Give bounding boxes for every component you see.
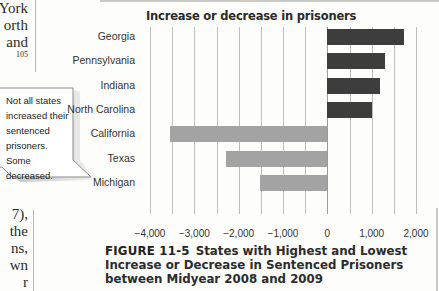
bar-north-carolina bbox=[327, 102, 372, 118]
gridline bbox=[172, 27, 173, 214]
gridline bbox=[217, 27, 218, 214]
category-label: Georgia bbox=[0, 30, 135, 42]
bar-indiana bbox=[327, 78, 379, 94]
category-label: Indiana bbox=[0, 79, 135, 91]
bar-georgia bbox=[327, 29, 403, 45]
category-label: Texas bbox=[0, 152, 135, 164]
x-tick-label: 1,000 bbox=[359, 228, 384, 239]
category-label: California bbox=[0, 127, 135, 139]
x-tick-label: −3,000 bbox=[179, 228, 210, 239]
figure-caption: FIGURE 11-5States with Highest and Lowes… bbox=[105, 244, 435, 286]
gridline bbox=[239, 27, 240, 214]
x-tick-label: 2,000 bbox=[403, 228, 428, 239]
x-tick-label: −2,000 bbox=[223, 228, 254, 239]
bar-pennsylvania bbox=[327, 53, 384, 69]
bar-michigan bbox=[260, 175, 328, 191]
x-tick-label: −1,000 bbox=[268, 228, 299, 239]
gridline bbox=[194, 27, 195, 214]
category-label: Pennsylvania bbox=[0, 54, 135, 66]
x-tick-label: 0 bbox=[325, 228, 331, 239]
bar-california bbox=[170, 126, 327, 142]
gridline bbox=[416, 27, 417, 214]
bar-texas bbox=[226, 151, 328, 167]
category-label: North Carolina bbox=[0, 103, 135, 115]
gridline bbox=[150, 27, 151, 214]
category-label: Michigan bbox=[0, 176, 135, 188]
figure-label: FIGURE 11-5 bbox=[105, 244, 190, 258]
gridline bbox=[394, 27, 395, 214]
x-tick-label: −4,000 bbox=[135, 228, 166, 239]
